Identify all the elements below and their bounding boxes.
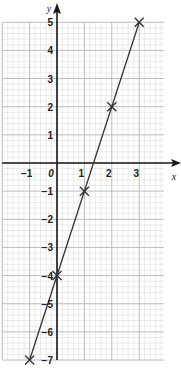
y-tick-label: 2 [47, 102, 53, 113]
y-tick-label: −7 [42, 355, 54, 366]
x-tick-label: 3 [133, 168, 139, 179]
tick-labels: xy0−112354321−1−2−3−4−5−6−7 [21, 3, 177, 366]
y-axis-label: y [46, 3, 52, 14]
x-axis-label: x [171, 171, 177, 182]
y-tick-label: 1 [47, 130, 53, 141]
y-tick-label: −6 [42, 327, 54, 338]
y-tick-label: −2 [42, 214, 54, 225]
y-tick-label: −3 [42, 242, 54, 253]
y-tick-label: −5 [42, 299, 54, 310]
y-tick-label: 4 [47, 45, 53, 56]
y-tick-label: −1 [42, 186, 54, 197]
line-chart: xy0−112354321−1−2−3−4−5−6−7 [0, 0, 181, 368]
y-tick-label: 3 [47, 74, 53, 85]
x-tick-label: 2 [106, 168, 112, 179]
axes [2, 3, 181, 360]
origin-label: 0 [48, 168, 54, 179]
x-tick-label: −1 [21, 168, 33, 179]
y-tick-label: −4 [42, 271, 54, 282]
x-tick-label: 1 [79, 168, 85, 179]
y-tick-label: 5 [47, 17, 53, 28]
